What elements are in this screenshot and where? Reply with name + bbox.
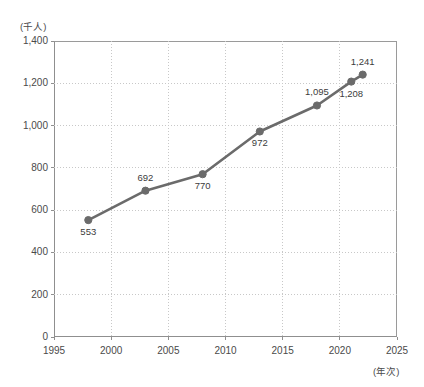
y-axis-tick-label: 800 bbox=[6, 162, 48, 173]
data-point-value-label: 972 bbox=[243, 137, 277, 148]
x-axis-tick-label: 2015 bbox=[263, 345, 303, 356]
line-chart: (千人) (年次) 02004006008001,0001,2001,400 1… bbox=[0, 0, 424, 387]
y-axis-tick-label: 200 bbox=[6, 289, 48, 300]
data-point-value-label: 770 bbox=[186, 180, 220, 191]
x-axis-tick-label: 2000 bbox=[91, 345, 131, 356]
y-axis-tick-label: 1,200 bbox=[6, 77, 48, 88]
data-point-value-label: 692 bbox=[128, 172, 162, 183]
x-axis-tick-label: 2025 bbox=[377, 345, 417, 356]
x-axis-tick-label: 1995 bbox=[34, 345, 74, 356]
x-axis-tick-label: 2020 bbox=[320, 345, 360, 356]
data-point-value-label: 1,095 bbox=[300, 86, 334, 97]
data-point-value-label: 1,241 bbox=[346, 56, 380, 67]
data-point-value-label: 553 bbox=[71, 226, 105, 237]
x-axis-unit-label: (年次) bbox=[373, 364, 399, 378]
y-axis-tick-label: 0 bbox=[6, 331, 48, 342]
y-axis-tick-label: 600 bbox=[6, 204, 48, 215]
x-axis-tick-label: 2005 bbox=[148, 345, 188, 356]
y-axis-tick-label: 1,400 bbox=[6, 35, 48, 46]
y-axis-tick-label: 400 bbox=[6, 246, 48, 257]
data-point-value-label: 1,208 bbox=[334, 88, 368, 99]
plot-area bbox=[54, 41, 397, 337]
y-axis-tick-label: 1,000 bbox=[6, 120, 48, 131]
x-axis-tick-label: 2010 bbox=[206, 345, 246, 356]
y-axis-unit-label: (千人) bbox=[20, 19, 46, 33]
